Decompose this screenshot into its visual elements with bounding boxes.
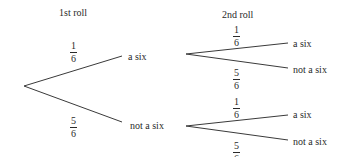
denominator: 6: [233, 38, 240, 48]
outcome-second-not-six-after-not-six: not a six: [293, 137, 327, 147]
prob-second-not-six-after-not-six: 5 6: [233, 141, 240, 157]
outcome-first-not-six: not a six: [130, 121, 164, 131]
denominator: 6: [70, 54, 77, 64]
denominator: 6: [233, 154, 240, 157]
denominator: 6: [70, 129, 77, 139]
prob-second-six-after-six: 1 6: [233, 25, 240, 48]
denominator: 6: [233, 110, 240, 120]
header-first-roll: 1st roll: [59, 8, 87, 18]
numerator: 5: [233, 68, 240, 78]
numerator: 1: [233, 25, 240, 35]
numerator: 1: [70, 41, 77, 51]
outcome-second-six-after-six: a six: [293, 39, 312, 49]
prob-first-six: 1 6: [70, 41, 77, 64]
header-second-roll: 2nd roll: [222, 10, 253, 20]
outcome-second-not-six-after-six: not a six: [293, 65, 327, 75]
outcome-first-six: a six: [128, 52, 147, 62]
numerator: 1: [233, 97, 240, 107]
denominator: 6: [233, 81, 240, 91]
prob-second-not-six-after-six: 5 6: [233, 68, 240, 91]
prob-second-six-after-not-six: 1 6: [233, 97, 240, 120]
tree-branches: [0, 0, 349, 157]
prob-first-not-six: 5 6: [70, 116, 77, 139]
outcome-second-six-after-not-six: a six: [293, 110, 312, 120]
branch-notsix-to-not-six: [186, 126, 288, 140]
numerator: 5: [70, 116, 77, 126]
numerator: 5: [233, 141, 240, 151]
branch-six-to-not-six: [186, 54, 288, 68]
